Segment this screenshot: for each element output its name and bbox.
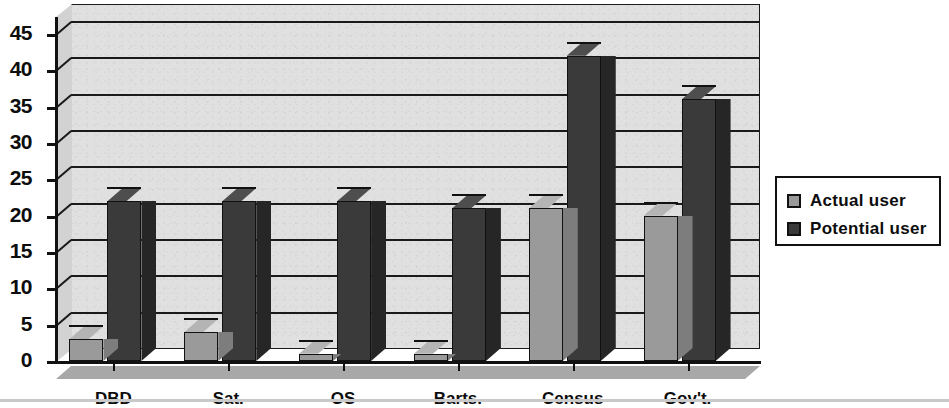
y-axis-tick: [47, 252, 56, 255]
gridline: [71, 130, 760, 132]
plot-area: 051015202530354045 DBDSat.OSBarts.Census…: [56, 17, 745, 362]
bar-front-face: [184, 332, 218, 361]
bar-actual-user-govt: [644, 216, 678, 361]
y-axis-label: 35: [0, 95, 32, 116]
bar-top-edge: [69, 325, 103, 327]
gridline: [71, 166, 760, 168]
x-axis-tick: [228, 362, 230, 371]
bar-top-edge: [529, 194, 563, 196]
y-axis-tick: [47, 288, 56, 291]
bar-actual-user-dbd: [69, 339, 103, 361]
bar-top-edge: [337, 187, 371, 189]
bar-actual-user-sat: [184, 332, 218, 361]
legend-swatch-icon-potential: [787, 222, 801, 236]
bar-front-face: [414, 354, 448, 361]
bar-top-edge: [222, 187, 256, 189]
y-axis-label: 25: [0, 167, 32, 188]
bar-front-face: [107, 201, 141, 361]
x-axis-tick: [688, 362, 690, 371]
bar-potential-user-os: [337, 201, 371, 361]
y-axis-tick: [47, 325, 56, 328]
bar-top-edge: [299, 340, 333, 342]
x-axis-tick: [113, 362, 115, 371]
bar-side-face: [486, 208, 501, 361]
bar-side-face: [716, 99, 731, 361]
bar-top-edge: [414, 340, 448, 342]
y-axis-label: 20: [0, 204, 32, 225]
bar-potential-user-dbd: [107, 201, 141, 361]
legend-item-potential-user: Potential user: [787, 215, 939, 243]
bar-side-face: [601, 56, 616, 361]
bar-side-face: [371, 201, 386, 361]
bar-top-edge: [452, 194, 486, 196]
bar-front-face: [529, 208, 563, 361]
bar-front-face: [337, 201, 371, 361]
bar-front-face: [69, 339, 103, 361]
chart-legend: Actual user Potential user: [775, 176, 941, 246]
bar-front-face: [299, 354, 333, 361]
scan-artifact-line: [0, 399, 949, 402]
y-axis-tick: [47, 361, 56, 364]
y-axis-label: 0: [0, 349, 32, 370]
y-axis-tick: [47, 143, 56, 146]
y-axis-label: 5: [0, 313, 32, 334]
x-axis-tick: [573, 362, 575, 371]
y-axis-tick: [47, 107, 56, 110]
bar-top-edge: [567, 42, 601, 44]
y-axis-label: 30: [0, 131, 32, 152]
bar-top-edge: [682, 85, 716, 87]
gridline: [71, 57, 760, 59]
legend-label-potential: Potential user: [810, 219, 927, 239]
bar-top-edge: [184, 318, 218, 320]
y-axis-tick: [47, 70, 56, 73]
y-axis-label: 45: [0, 22, 32, 43]
legend-item-actual-user: Actual user: [787, 187, 939, 215]
y-axis-label: 40: [0, 58, 32, 79]
bar-actual-user-barts: [414, 354, 448, 361]
bar-front-face: [644, 216, 678, 361]
y-axis-tick: [47, 179, 56, 182]
gridline: [71, 94, 760, 96]
gridline: [71, 21, 760, 23]
bar-top-edge: [644, 202, 678, 204]
bar-side-face: [678, 216, 693, 361]
legend-swatch-icon-actual: [787, 194, 801, 208]
bar-potential-user-barts: [452, 208, 486, 361]
legend-label-actual: Actual user: [810, 191, 906, 211]
bar-top-edge: [107, 187, 141, 189]
bar-actual-user-census: [529, 208, 563, 361]
x-axis-tick: [458, 362, 460, 371]
y-axis-line: [55, 17, 58, 363]
bar-side-face: [563, 208, 578, 361]
y-axis-tick: [47, 216, 56, 219]
y-axis-label: 10: [0, 276, 32, 297]
bar-side-face: [141, 201, 156, 361]
bar-actual-user-os: [299, 354, 333, 361]
y-axis-label: 15: [0, 240, 32, 261]
bar-side-face: [256, 201, 271, 361]
x-axis-line: [55, 361, 761, 364]
bar-front-face: [452, 208, 486, 361]
y-axis-tick: [47, 34, 56, 37]
x-axis-tick: [343, 362, 345, 371]
